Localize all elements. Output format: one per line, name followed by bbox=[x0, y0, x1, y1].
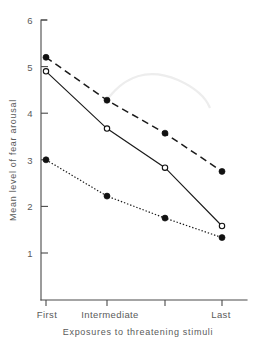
x-tick-label-first: First bbox=[37, 309, 57, 320]
data-point-dashed-filled-circle-2 bbox=[162, 130, 168, 136]
data-point-dashed-filled-circle-1 bbox=[104, 97, 110, 103]
data-point-dashed-filled-circle-3 bbox=[219, 168, 225, 174]
data-point-dotted-filled-circle-1 bbox=[104, 193, 110, 199]
data-point-solid-open-circle-3 bbox=[219, 223, 224, 228]
y-tick-label-2: 2 bbox=[27, 201, 33, 212]
y-tick-label-1: 1 bbox=[27, 248, 33, 259]
data-point-solid-open-circle-0 bbox=[43, 69, 48, 74]
data-point-dotted-filled-circle-2 bbox=[162, 215, 168, 221]
figure-container: 6 5 4 3 2 1 Mean level of fear arousal F… bbox=[0, 0, 262, 341]
series-line-solid-open-circle bbox=[46, 71, 222, 226]
x-axis-title: Exposures to threatening stimuli bbox=[63, 327, 213, 337]
data-point-solid-open-circle-1 bbox=[104, 126, 109, 131]
y-tick-label-5: 5 bbox=[27, 62, 33, 73]
data-point-solid-open-circle-2 bbox=[162, 165, 167, 170]
series-line-dashed-filled-circle bbox=[46, 57, 222, 171]
y-tick-label-3: 3 bbox=[27, 155, 33, 166]
y-tick-label-4: 4 bbox=[27, 108, 33, 119]
y-axis-title: Mean level of fear arousal bbox=[8, 99, 18, 221]
y-tick-label-6: 6 bbox=[27, 15, 33, 26]
scan-artifact bbox=[104, 74, 210, 108]
x-tick-label-intermediate: Intermediate bbox=[81, 309, 139, 320]
data-point-dotted-filled-circle-3 bbox=[219, 235, 225, 241]
line-chart: 6 5 4 3 2 1 Mean level of fear arousal F… bbox=[0, 0, 262, 341]
x-tick-label-last: Last bbox=[211, 309, 231, 320]
data-point-dashed-filled-circle-0 bbox=[43, 54, 49, 60]
data-point-dotted-filled-circle-0 bbox=[43, 157, 49, 163]
series-layer bbox=[43, 54, 225, 240]
x-axis-ticks bbox=[46, 300, 222, 306]
